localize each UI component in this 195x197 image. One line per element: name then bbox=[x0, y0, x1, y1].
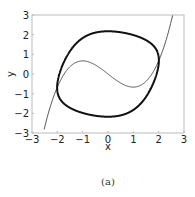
phase-portrait-figure: −3−2−10123−3−2−10123 x y (a) bbox=[0, 0, 195, 197]
x-tick-label: 1 bbox=[130, 134, 136, 145]
x-tick-label: −2 bbox=[50, 134, 65, 145]
x-tick-label: 2 bbox=[155, 134, 161, 145]
y-tick-label: −3 bbox=[14, 128, 29, 139]
figure-caption: (a) bbox=[101, 176, 115, 187]
y-tick-label: 1 bbox=[23, 49, 29, 60]
y-tick-label: −1 bbox=[14, 89, 29, 100]
x-tick-label: −1 bbox=[75, 134, 90, 145]
y-tick-label: 0 bbox=[23, 69, 29, 80]
x-tick-label: 3 bbox=[181, 134, 187, 145]
y-tick-label: −2 bbox=[14, 108, 29, 119]
y-tick-label: 2 bbox=[23, 30, 29, 41]
x-axis-label: x bbox=[105, 141, 111, 152]
y-tick-label: 3 bbox=[23, 10, 29, 21]
y-axis-label: y bbox=[5, 71, 16, 77]
